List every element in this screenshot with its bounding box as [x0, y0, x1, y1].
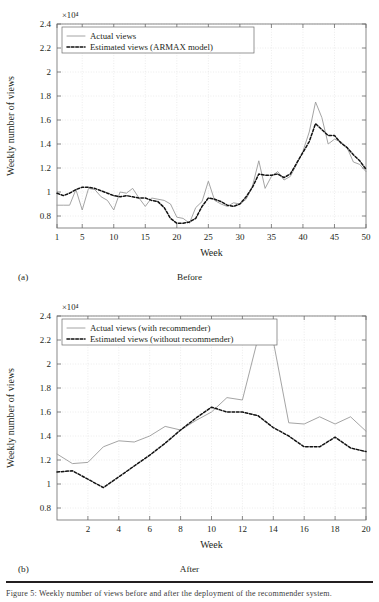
plot-area-a: 0.811.21.41.61.822.22.415101520253035404…	[0, 0, 379, 262]
x-tick-label: 1	[55, 232, 60, 242]
x-tick-label: 50	[362, 232, 372, 242]
x-tick-label: 5	[80, 232, 85, 242]
y-tick-label: 1	[47, 187, 52, 197]
y-tick-label: 1.6	[40, 115, 52, 125]
x-tick-label: 10	[109, 232, 119, 242]
y-tick-label: 1.4	[40, 139, 52, 149]
y-tick-label: 1	[47, 479, 52, 489]
x-tick-label: 20	[362, 524, 372, 534]
legend-label-0: Actual views	[90, 31, 137, 41]
series-line-estimated	[57, 124, 366, 224]
legend-label-1: Estimated views (without recommender)	[90, 334, 233, 344]
y-tick-label: 2.2	[40, 43, 51, 53]
x-tick-label: 25	[204, 232, 214, 242]
chart-svg-a: 0.811.21.41.61.822.22.415101520253035404…	[0, 0, 379, 262]
x-tick-label: 14	[269, 524, 279, 534]
axis-exponent-label: ×10⁴	[62, 302, 78, 312]
subfigure-caption-a: Before	[0, 272, 379, 282]
y-tick-label: 0.8	[40, 503, 52, 513]
y-tick-label: 2.4	[40, 19, 52, 29]
y-tick-label: 1.4	[40, 431, 52, 441]
x-tick-label: 15	[141, 232, 151, 242]
caption-row-a: (a) Before	[0, 272, 379, 288]
x-tick-label: 2	[86, 524, 91, 534]
x-tick-label: 20	[172, 232, 182, 242]
figure-panel-b: 0.811.21.41.61.822.22.42468101214161820×…	[0, 292, 379, 587]
x-axis-title: Week	[200, 247, 223, 258]
y-tick-label: 0.8	[40, 211, 52, 221]
x-tick-label: 30	[235, 232, 245, 242]
x-tick-label: 18	[331, 524, 341, 534]
subfigure-caption-b: After	[0, 564, 379, 574]
y-tick-label: 1.2	[40, 163, 51, 173]
y-tick-label: 1.8	[40, 383, 52, 393]
legend-label-0: Actual views (with recommender)	[90, 323, 210, 333]
legend-label-1: Estimated views (ARMAX model)	[90, 42, 213, 52]
y-axis-title: Weekly number of views	[5, 368, 16, 468]
x-tick-label: 40	[298, 232, 308, 242]
chart-content: 0.811.21.41.61.822.22.42468101214161820×…	[5, 302, 371, 550]
chart-svg-b: 0.811.21.41.61.822.22.42468101214161820×…	[0, 292, 379, 554]
x-tick-label: 8	[178, 524, 183, 534]
caption-row-b: (b) After	[0, 564, 379, 580]
plot-area-b: 0.811.21.41.61.822.22.42468101214161820×…	[0, 292, 379, 554]
figure-panel-a: 0.811.21.41.61.822.22.415101520253035404…	[0, 0, 379, 300]
y-tick-label: 2.2	[40, 335, 51, 345]
y-tick-label: 2.4	[40, 311, 52, 321]
chart-content: 0.811.21.41.61.822.22.415101520253035404…	[5, 10, 371, 258]
x-tick-label: 4	[117, 524, 122, 534]
x-tick-label: 16	[300, 524, 310, 534]
x-tick-label: 12	[238, 524, 247, 534]
axis-exponent-label: ×10⁴	[62, 10, 78, 20]
y-tick-label: 1.2	[40, 455, 51, 465]
y-tick-label: 2	[47, 67, 52, 77]
y-tick-label: 1.8	[40, 91, 52, 101]
x-tick-label: 10	[207, 524, 217, 534]
y-tick-label: 1.6	[40, 407, 52, 417]
x-tick-label: 35	[267, 232, 277, 242]
footer-caption-fragment: Figure 5: Weekly number of views before …	[6, 589, 373, 600]
x-axis-title: Week	[200, 539, 223, 550]
footer-divider	[6, 581, 373, 583]
y-tick-label: 2	[47, 359, 52, 369]
series-line-actual	[57, 339, 366, 464]
x-tick-label: 6	[147, 524, 152, 534]
y-axis-title: Weekly number of views	[5, 76, 16, 176]
axis-frame	[57, 24, 366, 228]
x-tick-label: 45	[330, 232, 340, 242]
